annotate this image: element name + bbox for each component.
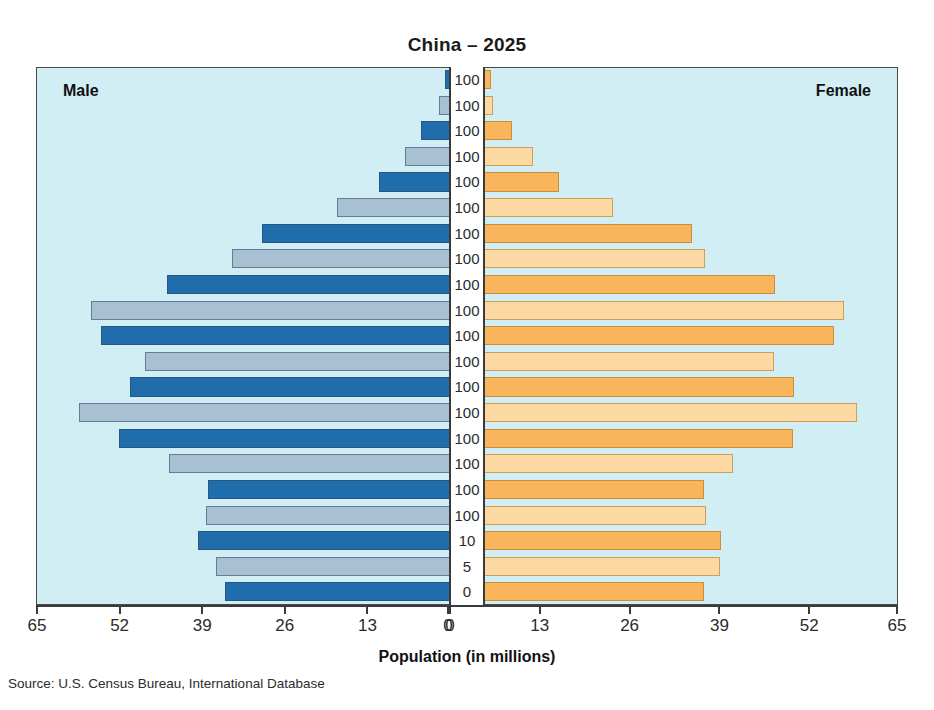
axis-tick [449,605,451,614]
age-axis-label: 100 [449,349,485,375]
age-axis-label: 100 [449,195,485,221]
female-bar [485,147,533,166]
age-axis-label: 100 [449,67,485,93]
male-bar [119,429,449,448]
female-bar [485,454,733,473]
female-bar [485,224,692,243]
female-bar [485,403,857,422]
age-axis-label: 100 [449,451,485,477]
axis-tick [808,605,810,614]
axis-tick-label: 13 [358,616,377,636]
male-bar [208,480,449,499]
male-bar [130,377,449,396]
male-bar [79,403,449,422]
age-axis-label: 100 [449,169,485,195]
age-axis-label: 100 [449,503,485,529]
female-bar [485,198,613,217]
axis-tick-label: 39 [193,616,212,636]
female-bar [485,121,512,140]
female-bar [485,352,774,371]
axis-tick [366,605,368,614]
female-bar [485,557,720,576]
male-bar [262,224,449,243]
axis-tick [539,605,541,614]
axis-tick-label: 13 [530,616,549,636]
axis-tick [201,605,203,614]
axis-tick-label: 65 [888,616,907,636]
axis-line-male [36,605,449,607]
age-axis-label: 5 [449,554,485,580]
female-bar [485,429,793,448]
axis-line-female [449,605,898,607]
axis-tick [896,605,898,614]
age-axis-label: 100 [449,272,485,298]
male-bar [379,172,449,191]
age-axis-label: 10 [449,528,485,554]
axis-tick-label: 39 [710,616,729,636]
male-bar [405,147,449,166]
male-bar [145,352,449,371]
age-axis-label: 100 [449,246,485,272]
male-bar [169,454,449,473]
male-bar [216,557,449,576]
female-bar [485,377,794,396]
female-bar [485,531,721,550]
bar-rows: 1001001001001001001001001001001001001001… [36,67,898,605]
axis-tick [284,605,286,614]
age-axis-label: 100 [449,426,485,452]
male-bar [167,275,449,294]
male-bar [206,506,449,525]
age-axis-label: 100 [449,93,485,119]
age-axis-label: 100 [449,374,485,400]
female-bar [485,480,704,499]
age-axis-label: 100 [449,144,485,170]
chart-title: China – 2025 [0,34,934,56]
axis-tick-label: 26 [275,616,294,636]
axis-tick-label: 52 [110,616,129,636]
age-axis-label: 100 [449,221,485,247]
population-pyramid-figure: China – 2025 Male Female 100100100100100… [0,0,934,710]
male-bar [337,198,449,217]
age-axis-label: 100 [449,323,485,349]
female-bar [485,70,491,89]
female-bar [485,249,705,268]
female-bar [485,301,844,320]
axis-tick-label: 52 [800,616,819,636]
female-bar [485,326,834,345]
source-note: Source: U.S. Census Bureau, Internationa… [8,676,325,691]
axis-tick [36,605,38,614]
x-axis-male: 65523926130 [36,605,449,651]
axis-tick [629,605,631,614]
male-bar [101,326,449,345]
male-bar [225,582,449,601]
male-bar [232,249,449,268]
age-axis-label: 100 [449,477,485,503]
male-bar [439,96,449,115]
plot-area: Male Female 1001001001001001001001001001… [36,67,898,605]
axis-tick-label: 65 [28,616,47,636]
axis-tick-label: 26 [620,616,639,636]
male-bar [91,301,449,320]
axis-tick [119,605,121,614]
male-bar [198,531,449,550]
female-bar [485,582,704,601]
age-axis-label: 100 [449,298,485,324]
female-bar [485,506,706,525]
x-axis-title: Population (in millions) [0,648,934,666]
x-axis-female: 01326395265 [449,605,898,651]
age-axis-label: 100 [449,118,485,144]
axis-tick-label: 0 [445,616,454,636]
female-bar [485,172,559,191]
age-axis-label: 100 [449,400,485,426]
female-bar [485,96,493,115]
axis-tick [718,605,720,614]
male-bar [421,121,449,140]
age-axis-label: 0 [449,579,485,605]
female-bar [485,275,775,294]
